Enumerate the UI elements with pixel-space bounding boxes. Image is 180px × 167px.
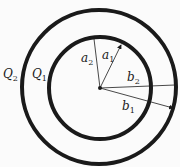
label-a1: a1 bbox=[102, 48, 114, 64]
label-Q1: Q1 bbox=[32, 67, 47, 83]
label-b1: b1 bbox=[122, 99, 135, 115]
concentric-shells-diagram: Q2 Q1 a2 a1 b2 b1 bbox=[0, 0, 180, 167]
label-b2: b2 bbox=[127, 70, 140, 86]
radius-a2-line bbox=[94, 39, 100, 88]
radius-b1-arrow bbox=[100, 88, 173, 108]
label-a2: a2 bbox=[81, 51, 93, 67]
label-Q2: Q2 bbox=[3, 67, 18, 83]
diagram-svg: Q2 Q1 a2 a1 b2 b1 bbox=[0, 0, 180, 167]
